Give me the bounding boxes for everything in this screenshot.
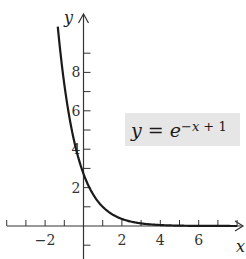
x-tick-label: 4 xyxy=(156,232,165,248)
y-axis-label: y xyxy=(63,8,74,27)
equation-lhs: y xyxy=(131,119,142,141)
x-tick-label: −2 xyxy=(35,232,56,248)
y-tick-label: 8 xyxy=(72,64,81,80)
equation-label: y = e −x + 1 xyxy=(125,113,240,146)
equation-equals: = xyxy=(142,119,170,141)
equation-base: e xyxy=(170,119,181,141)
x-axis-label: x xyxy=(236,237,245,256)
exponent-constant: + 1 xyxy=(199,119,226,134)
equation-exponent: −x + 1 xyxy=(181,119,227,134)
x-tick-label: 6 xyxy=(194,232,203,248)
y-tick-label: 2 xyxy=(72,180,81,196)
tick-labels: −22462468 xyxy=(35,64,203,248)
ticks xyxy=(7,53,237,245)
x-tick-label: 2 xyxy=(117,232,126,248)
y-tick-label: 6 xyxy=(72,103,81,119)
exponent-variable: −x xyxy=(181,119,199,134)
